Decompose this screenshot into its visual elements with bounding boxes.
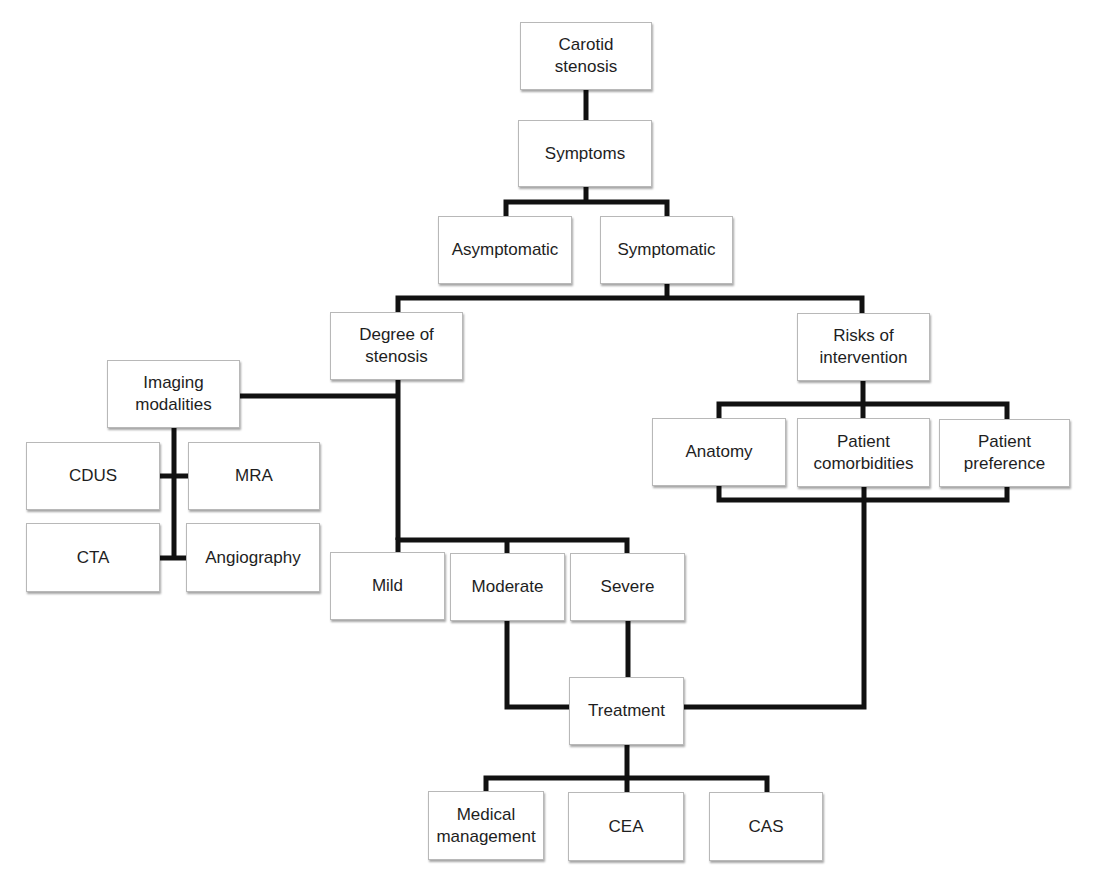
node-medical-management: Medical management <box>428 791 544 860</box>
edge-main-bar <box>398 298 862 313</box>
node-angiography: Angiography <box>186 523 320 592</box>
node-cta: CTA <box>26 523 160 592</box>
node-risks-of-intervention: Risks of intervention <box>797 313 930 381</box>
node-symptomatic: Symptomatic <box>600 216 733 284</box>
node-patient-comorbidities: Patient comorbidities <box>797 418 930 487</box>
node-asymptomatic: Asymptomatic <box>438 216 572 284</box>
node-imaging-modalities: Imaging modalities <box>107 360 240 428</box>
node-mra: MRA <box>188 442 320 510</box>
node-patient-preference: Patient preference <box>939 419 1070 487</box>
node-degree-of-stenosis: Degree of stenosis <box>330 312 463 380</box>
node-mild: Mild <box>330 552 445 620</box>
edge-moderate-treatment <box>507 621 569 707</box>
node-carotid-stenosis: Carotid stenosis <box>520 22 652 90</box>
node-severe: Severe <box>570 553 685 621</box>
node-cdus: CDUS <box>26 442 160 510</box>
node-moderate: Moderate <box>450 553 565 621</box>
node-anatomy: Anatomy <box>652 418 786 486</box>
node-treatment: Treatment <box>569 677 684 745</box>
edge-comorb-down <box>684 487 864 707</box>
edge-symptoms-split <box>506 202 667 216</box>
node-symptoms: Symptoms <box>518 120 652 187</box>
node-cea: CEA <box>568 792 684 861</box>
carotid-stenosis-flowchart: Carotid stenosis Symptoms Asymptomatic S… <box>0 0 1097 886</box>
node-cas: CAS <box>709 792 823 861</box>
